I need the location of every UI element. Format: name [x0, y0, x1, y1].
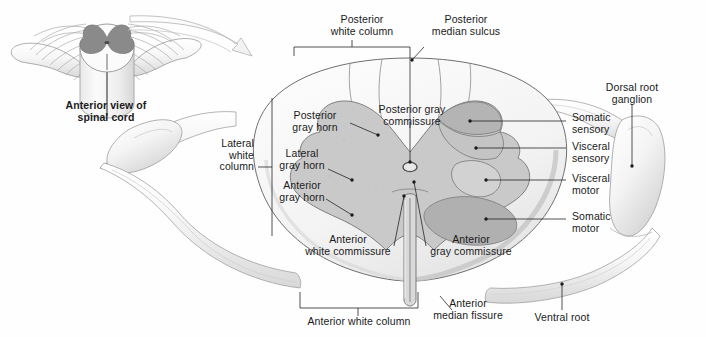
label-somatic-motor: Somatic motor	[572, 211, 646, 234]
label-posterior-gray-horn: Posterior gray horn	[279, 110, 351, 133]
inset-caption-line1: Anterior view of	[66, 99, 147, 111]
inset-caption-line2: spinal cord	[77, 111, 134, 123]
label-anterior-white-commissure: Anterior white commissure	[298, 234, 398, 257]
label-ventral-root: Ventral root	[524, 312, 600, 324]
label-dorsal-root-ganglion: Dorsal root ganglion	[592, 82, 672, 105]
label-visceral-sensory: Visceral sensory	[572, 141, 646, 164]
label-anterior-gray-commissure: Anterior gray commissure	[420, 234, 522, 257]
label-posterior-median-sulcus: Posterior median sulcus	[420, 14, 512, 37]
central-canal	[403, 162, 417, 171]
figure-canvas: Anterior view ofspinal cord Posterior wh…	[0, 0, 706, 337]
inset-caption: Anterior view ofspinal cord	[36, 100, 176, 124]
left-dorsal-root-ganglion	[107, 120, 182, 173]
label-anterior-median-fissure: Anterior median fissure	[424, 298, 512, 321]
label-anterior-white-column: Anterior white column	[300, 316, 418, 328]
label-posterior-white-column: Posterior white column	[317, 14, 407, 37]
label-visceral-motor: Visceral motor	[572, 173, 646, 196]
anterior-median-fissure	[404, 194, 416, 306]
spinal-cord-diagram	[0, 0, 706, 337]
label-posterior-gray-commissure: Posterior gray commissure	[368, 104, 456, 127]
label-somatic-sensory: Somatic sensory	[572, 112, 646, 135]
label-lateral-gray-horn: Lateral gray horn	[266, 148, 338, 171]
label-anterior-gray-horn: Anterior gray horn	[266, 180, 338, 203]
label-lateral-white-column: Lateral white column	[188, 138, 254, 173]
